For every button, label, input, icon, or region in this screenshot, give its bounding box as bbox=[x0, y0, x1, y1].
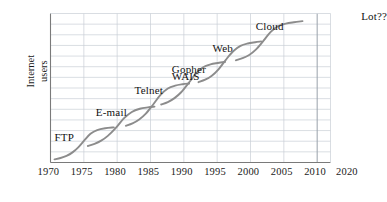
y-axis-label: Internet users bbox=[24, 48, 50, 94]
x-tick-1995: 1995 bbox=[204, 166, 226, 177]
curve-label-e-mail: E-mail bbox=[96, 106, 127, 118]
curve-label-telnet: Telnet bbox=[135, 84, 164, 96]
x-tick-1980: 1980 bbox=[104, 166, 126, 177]
adoption-curves bbox=[55, 21, 303, 159]
curve-label-ftp: FTP bbox=[55, 131, 75, 143]
future-annotation: Lot?? bbox=[361, 10, 387, 22]
x-tick-1975: 1975 bbox=[71, 166, 93, 177]
x-tick-1990: 1990 bbox=[171, 166, 193, 177]
curve-label-wais: WAIS bbox=[172, 70, 200, 82]
curve-label-cloud: Cloud bbox=[256, 20, 284, 32]
x-tick-2000: 2000 bbox=[238, 166, 260, 177]
x-tick-2005: 2005 bbox=[271, 166, 293, 177]
x-tick-1970: 1970 bbox=[38, 166, 60, 177]
x-tick-1985: 1985 bbox=[138, 166, 160, 177]
x-tick-2010: 2010 bbox=[304, 166, 326, 177]
x-axis-extra-label: 2020 bbox=[336, 166, 358, 177]
curve-label-web: Web bbox=[213, 42, 233, 54]
